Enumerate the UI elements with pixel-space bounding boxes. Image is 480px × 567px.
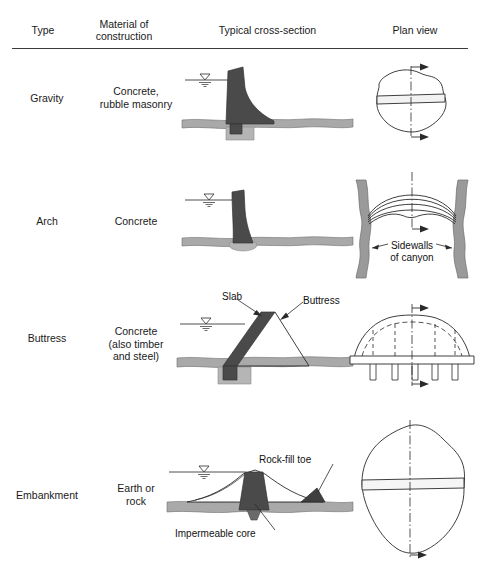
core-cutoff — [247, 510, 261, 520]
slab-label: Slab — [222, 291, 242, 303]
buttress-label: Buttress — [303, 295, 340, 307]
header-cross-section-label: Typical cross-section — [219, 24, 316, 36]
row-type-buttress: Buttress — [4, 332, 90, 345]
arch-dam-body — [232, 190, 253, 243]
dam-crest-band — [362, 478, 464, 490]
embankment-plan-view-figure — [348, 418, 476, 563]
buttress-fins — [370, 364, 458, 380]
header-plan-view: Plan view — [360, 24, 470, 36]
canyon-wall-left — [356, 180, 371, 278]
row-type-embankment-label: Embankment — [16, 489, 78, 501]
header-cross-section: Typical cross-section — [180, 24, 355, 36]
ground-layer — [182, 237, 353, 247]
row-material-arch: Concrete — [88, 215, 184, 228]
dam-foundation-stub — [230, 124, 242, 134]
canyon-wall-right — [453, 180, 468, 278]
header-material: Material of construction — [78, 18, 170, 42]
row-type-embankment: Embankment — [4, 489, 90, 502]
row-type-arch-label: Arch — [36, 215, 58, 227]
rock-fill-toe — [301, 488, 325, 502]
sidewalls-of-canyon-label: Sidewalls of canyon — [380, 240, 444, 263]
row-type-arch: Arch — [4, 215, 90, 228]
row-material-buttress: Concrete (also timber and steel) — [88, 325, 184, 363]
buttress-plan-view-figure — [348, 298, 476, 398]
dam-types-figure: Type Material of construction Typical cr… — [0, 0, 480, 567]
section-arrow-bottom-icon — [412, 226, 429, 233]
buttress-leader-line — [280, 302, 303, 320]
sidewalls-label-line1: Sidewalls — [380, 240, 444, 252]
section-arrow-top-icon — [412, 305, 429, 312]
header-divider — [12, 48, 468, 49]
header-plan-view-label: Plan view — [393, 24, 438, 36]
row-material-gravity-line2: rubble masonry — [88, 98, 184, 111]
sidewalls-label-line2: of canyon — [380, 252, 444, 264]
header-type: Type — [8, 24, 78, 36]
header-material-line1: Material of — [78, 18, 170, 30]
arch-plan-view-figure — [348, 172, 476, 284]
impermeable-core-label: Impermeable core — [175, 528, 256, 540]
row-material-buttress-line1: Concrete — [88, 325, 184, 338]
section-arrow-top-icon — [411, 64, 429, 71]
header-type-label: Type — [32, 24, 55, 36]
header-material-line2: construction — [78, 30, 170, 42]
gravity-dam-body — [226, 67, 274, 124]
section-arrow-bottom-icon — [412, 381, 429, 388]
slab-foundation-stub — [223, 366, 237, 380]
gravity-cross-section-figure — [180, 58, 355, 143]
row-material-buttress-line3: and steel) — [88, 350, 184, 363]
arch-cross-section-figure — [180, 180, 355, 265]
row-material-buttress-line2: (also timber — [88, 338, 184, 351]
row-material-gravity: Concrete, rubble masonry — [88, 85, 184, 110]
rock-fill-toe-leader-line — [318, 464, 333, 492]
row-type-gravity-label: Gravity — [30, 92, 63, 104]
gravity-plan-view-figure — [352, 58, 472, 148]
buttress-cross-section-figure — [175, 300, 355, 395]
row-material-gravity-line1: Concrete, — [88, 85, 184, 98]
section-arrow-bottom-icon — [411, 134, 429, 141]
row-type-gravity: Gravity — [4, 92, 90, 105]
row-material-arch-line1: Concrete — [88, 215, 184, 228]
row-type-buttress-label: Buttress — [28, 332, 67, 344]
rock-fill-toe-label: Rock-fill toe — [259, 454, 311, 466]
